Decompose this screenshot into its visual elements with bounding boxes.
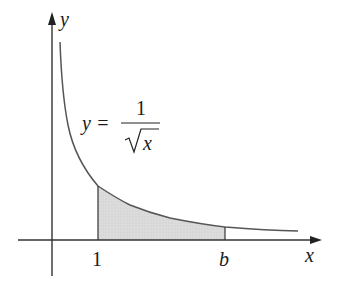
function-label: y = 1 x <box>80 97 160 154</box>
shaded-area <box>98 186 225 240</box>
upper-bound-label: b <box>219 248 229 270</box>
diagram-canvas: y x 1 b y = 1 x <box>0 0 347 288</box>
y-axis-arrow-icon <box>48 12 56 25</box>
sqrt-radical-icon <box>125 129 159 152</box>
function-curve <box>60 42 298 231</box>
function-numerator: 1 <box>136 97 146 119</box>
x-axis-label: x <box>304 244 314 266</box>
y-axis-label: y <box>58 8 69 31</box>
x-axis-arrow-icon <box>310 236 322 244</box>
function-lhs: y = <box>80 112 109 135</box>
function-radicand: x <box>142 132 152 154</box>
lower-bound-label: 1 <box>92 248 102 270</box>
